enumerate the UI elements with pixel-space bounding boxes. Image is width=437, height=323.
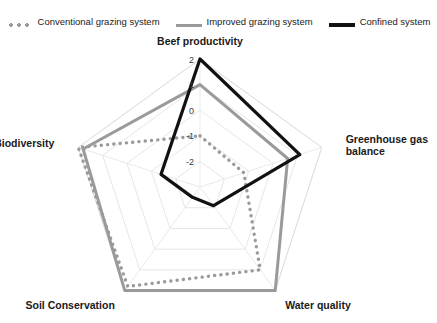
axis-label-soil-conservation: Soil Conservation — [26, 299, 115, 311]
radial-tick-label: -1 — [186, 131, 194, 141]
radial-tick-label: 1 — [189, 80, 194, 90]
axis-label-greenhouse-gas-balance: Greenhouse gasbalance — [346, 133, 428, 157]
radar-axis-labels: Beef productivityGreenhouse gasbalanceWa… — [0, 35, 428, 311]
radar-chart: Conventional grazing system Improved gra… — [0, 0, 437, 323]
axis-label-beef-productivity: Beef productivity — [157, 35, 243, 47]
grid-spoke — [78, 147, 200, 187]
radar-series-layer — [78, 59, 300, 291]
radial-tick-labels: 210-1-2 — [186, 55, 194, 167]
grid-spoke — [200, 187, 275, 291]
radial-tick-label: -2 — [186, 157, 194, 167]
grid-spoke — [125, 187, 200, 291]
axis-label-water-quality: Water quality — [285, 299, 351, 311]
radial-tick-label: 0 — [189, 106, 194, 116]
radial-tick-label: 2 — [189, 55, 194, 65]
radar-plot-area: 210-1-2 Beef productivityGreenhouse gasb… — [0, 0, 437, 323]
axis-label-biodiversity: Biodiversity — [0, 137, 54, 149]
